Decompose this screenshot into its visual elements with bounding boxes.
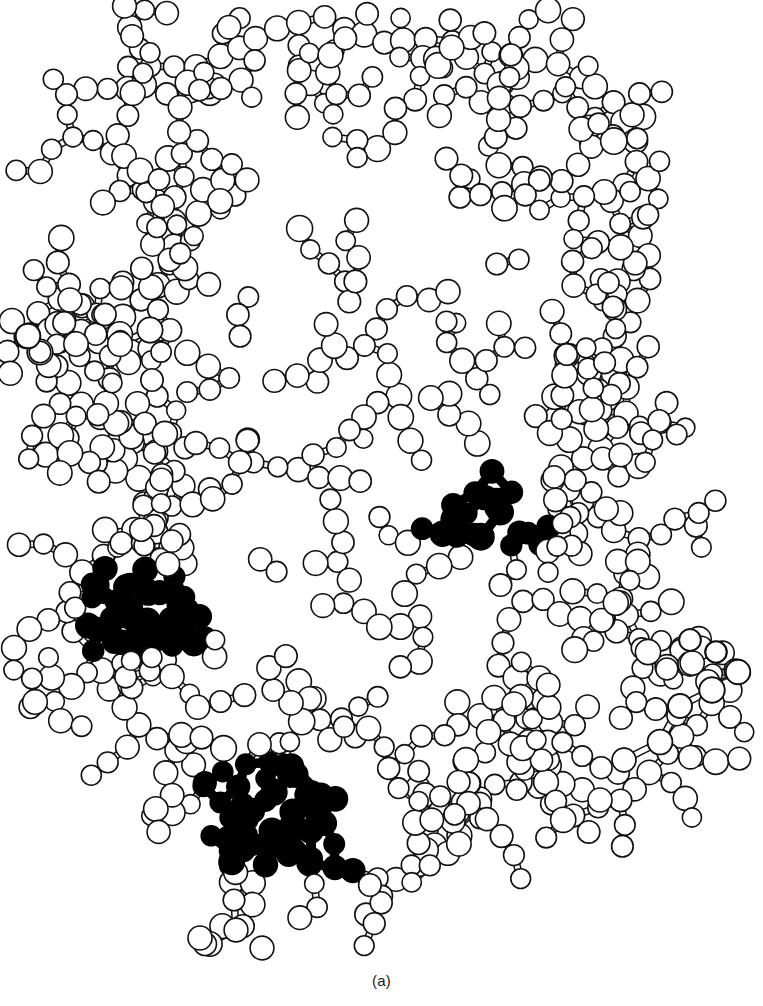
atom-open — [395, 745, 414, 764]
atom-open — [444, 804, 465, 825]
atom-open — [142, 647, 162, 667]
atom-open — [87, 404, 109, 426]
atom-open — [63, 127, 83, 147]
atom-open — [592, 180, 616, 204]
atom-open — [208, 189, 233, 214]
atom-open — [19, 449, 39, 469]
atom-open — [533, 91, 553, 111]
atom-open — [219, 368, 239, 388]
atom-open — [473, 22, 495, 44]
atom-open — [620, 103, 644, 127]
atom-open — [23, 260, 44, 281]
atom-open — [413, 627, 433, 647]
atom-open — [679, 629, 700, 650]
atom-open — [71, 716, 91, 736]
atom-open — [137, 317, 162, 342]
atom-open — [383, 121, 407, 145]
atom-open — [486, 253, 508, 275]
atom-open — [735, 723, 754, 742]
atom-highlighted — [243, 834, 264, 855]
atom-open — [515, 337, 536, 358]
atom-open — [4, 660, 24, 680]
atom-open — [682, 808, 701, 827]
atom-open — [502, 692, 526, 716]
atom-open — [288, 906, 312, 930]
atom-open — [324, 509, 349, 534]
atom-highlighted — [279, 754, 303, 778]
atom-open — [477, 720, 501, 744]
atom-open — [210, 691, 231, 712]
atom-open — [356, 716, 380, 740]
atom-open — [326, 84, 347, 105]
atom-open — [327, 438, 347, 458]
atom-open — [151, 195, 174, 218]
atom-highlighted — [162, 635, 183, 656]
atom-open — [286, 364, 309, 387]
atom-open — [487, 311, 511, 335]
atom-open — [90, 279, 110, 299]
atom-open — [235, 168, 259, 192]
atom-open — [122, 651, 141, 670]
atom-open — [728, 747, 751, 770]
atom-open — [602, 296, 623, 317]
atom-open — [551, 807, 576, 832]
atom-open — [47, 251, 70, 274]
atom-open — [492, 632, 514, 654]
atom-open — [170, 243, 191, 264]
atom-open — [201, 487, 225, 511]
atom-open — [536, 827, 557, 848]
atom-open — [367, 614, 392, 639]
atom-highlighted — [301, 848, 322, 869]
atom-open — [320, 489, 341, 510]
atom-open — [345, 208, 369, 232]
atom-highlighted — [442, 494, 464, 516]
atom-open — [434, 725, 455, 746]
atom-open — [668, 694, 692, 718]
atom-open — [576, 695, 599, 718]
atom-open — [42, 139, 62, 159]
atom-open — [378, 344, 398, 364]
atom-highlighted — [480, 460, 503, 483]
atom-open — [275, 645, 298, 668]
atom-open — [568, 210, 589, 231]
atom-open — [625, 288, 649, 312]
atom-open — [560, 579, 585, 604]
atom-open — [552, 732, 573, 753]
atom-open — [635, 452, 655, 472]
atom-open — [185, 432, 208, 455]
atom-open — [113, 0, 137, 18]
atom-open — [648, 730, 673, 755]
atom-open — [359, 874, 382, 897]
atom-open — [175, 340, 200, 365]
atom-open — [301, 240, 320, 259]
atom-open — [87, 470, 110, 493]
atom-open — [679, 746, 702, 769]
atom-open — [397, 286, 418, 307]
atom-open — [436, 311, 457, 332]
atom-open — [322, 333, 347, 358]
atom-open — [656, 658, 678, 680]
atom-open — [152, 494, 171, 513]
atom-open — [362, 67, 382, 87]
atom-open — [201, 149, 223, 171]
atom-open — [583, 378, 603, 398]
atom-highlighted — [171, 608, 198, 635]
figure-panel: (a) — [0, 0, 763, 1006]
atom-open — [576, 338, 596, 358]
atom-open — [64, 332, 88, 356]
atom-open — [492, 196, 517, 221]
atom-open — [430, 786, 451, 807]
atom-open — [268, 457, 288, 477]
atom-open — [494, 337, 514, 357]
atom-open — [152, 421, 177, 446]
atom-open — [0, 340, 19, 363]
atom-open — [562, 637, 588, 663]
atom-open — [667, 424, 687, 444]
atom-open — [110, 532, 132, 554]
atom-open — [287, 216, 313, 242]
atom-open — [311, 594, 335, 618]
atom-open — [318, 253, 339, 274]
atom-open — [58, 105, 78, 125]
atom-open — [637, 336, 659, 358]
atom-open — [391, 8, 410, 27]
